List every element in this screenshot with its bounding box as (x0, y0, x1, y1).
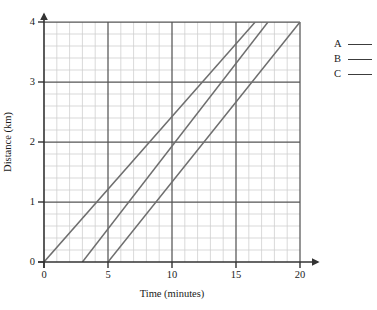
y-axis-title: Distance (km) (2, 112, 13, 172)
legend-swatch-b (348, 59, 372, 60)
x-tick-label-5: 5 (105, 270, 110, 281)
y-tick-label-0: 0 (26, 257, 35, 268)
chart-legend: A B C (334, 38, 372, 83)
legend-label-b: B (334, 54, 345, 65)
y-tick-label-1: 1 (26, 197, 35, 208)
plot-area-svg (0, 0, 377, 310)
legend-item-b[interactable]: B (334, 53, 372, 66)
x-tick-label-15: 15 (231, 270, 242, 281)
chart-page: 0 5 10 15 20 0 1 2 3 4 Time (minutes) Di… (0, 0, 377, 310)
distance-time-chart: 0 5 10 15 20 0 1 2 3 4 Time (minutes) Di… (0, 0, 377, 310)
legend-item-c[interactable]: C (334, 68, 372, 81)
legend-label-c: C (334, 69, 345, 80)
legend-label-a: A (334, 39, 345, 50)
x-tick-label-0: 0 (41, 270, 46, 281)
y-axis-ticks (38, 22, 44, 262)
y-tick-label-2: 2 (26, 137, 35, 148)
x-tick-label-20: 20 (295, 270, 306, 281)
legend-swatch-a (348, 44, 372, 45)
x-tick-label-10: 10 (167, 270, 178, 281)
legend-swatch-c (348, 74, 372, 75)
y-tick-label-3: 3 (26, 77, 35, 88)
x-axis-title: Time (minutes) (140, 288, 205, 299)
legend-item-a[interactable]: A (334, 38, 372, 51)
x-axis-ticks (44, 262, 300, 268)
y-tick-label-4: 4 (26, 17, 35, 28)
